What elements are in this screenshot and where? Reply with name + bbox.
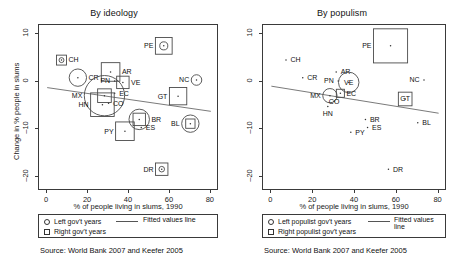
point-label-mx: MX [310,92,321,99]
source-note-right: Source: World Bank 2007 and Keefer 2005 [264,246,407,255]
x-tick-mark [438,190,439,193]
data-point-co [108,103,110,105]
data-point-pe [163,45,165,47]
point-label-pn: PN [324,77,334,84]
data-point-bl [190,123,192,125]
data-point-hn [327,106,329,108]
plot-area-left: CHCRPEARPNVEECMXCOHNNCGTBRESBLPYDR [38,24,218,190]
data-point-nc [196,79,198,81]
x-tick-mark [128,190,129,193]
point-label-gt: GT [158,93,168,100]
x-tick-mark [87,190,88,193]
point-label-es: ES [146,124,156,131]
point-label-co: CO [329,98,340,105]
point-label-nc: NC [409,76,419,83]
point-label-ch: CH [68,56,78,63]
point-label-pe: PE [362,42,372,49]
y-tick-mark [35,176,38,177]
point-label-nc: NC [179,76,189,83]
data-point-pn [114,80,116,82]
data-point-ar [335,71,337,73]
x-tick-label: 0 [36,195,56,204]
figure-root: By ideology Change in % people in slums … [0,0,456,269]
data-point-bl [417,122,419,124]
point-label-ec: EC [346,90,356,97]
point-label-pe: PE [144,42,154,49]
plot-area-right: CHCRPEARPNVEECMXCOHNNCGTBRESBLPYDR [262,24,446,190]
data-point-ve [122,82,124,84]
data-point-cr [77,77,79,79]
data-point-ar [110,71,112,73]
x-tick-mark [210,190,211,193]
data-point-nc [423,79,425,81]
square-marker-icon [44,229,50,235]
data-point-py [350,131,352,133]
x-tick-mark [312,190,313,193]
point-label-py: PY [104,128,114,135]
scatter-layer-right: CHCRPEARPNVEECMXCOHNNCGTBRESBLPYDR [263,25,446,190]
point-label-ve: VE [131,79,141,86]
x-tick-label: 60 [386,195,406,204]
data-point-gt [177,95,179,97]
y-tick-label: –10 [245,121,254,135]
point-label-br: BR [370,116,380,123]
y-tick-label: 0 [21,73,30,87]
data-point-es [367,127,369,128]
legend-label-fitted: Fitted values line [394,216,445,230]
point-label-mx: MX [72,92,83,99]
x-tick-label: 40 [344,195,364,204]
point-label-gt: GT [400,95,410,102]
y-tick-mark [259,128,262,129]
data-point-es [141,127,143,128]
point-label-ar: AR [122,68,132,75]
x-tick-label: 40 [118,195,138,204]
square-marker-icon [268,229,274,235]
panel-title-left: By ideology [0,8,228,18]
point-label-bl: BL [171,120,180,127]
panel-by-populism: By populism CHCRPEARPNVEECMXCOHNNCGTBRES… [228,0,456,269]
x-tick-mark [169,190,170,193]
y-tick-mark [259,81,262,82]
data-point-ch [61,59,63,61]
y-tick-label: 10 [245,26,254,40]
y-tick-label: –10 [21,121,30,135]
fitted-line-icon [116,221,138,222]
legend-row-right-gov: Right gov't years [44,226,106,237]
data-point-hn [102,104,104,106]
legend-label-right-gov: Right gov't years [54,228,106,235]
legend-left: Left gov't years Right gov't years Fitte… [38,214,218,238]
y-tick-mark [35,81,38,82]
point-label-cr: CR [307,74,317,81]
y-tick-label: –20 [21,168,30,182]
point-label-ch: CH [291,56,301,63]
x-tick-mark [354,190,355,193]
panel-title-right: By populism [228,8,456,18]
y-tick-mark [35,128,38,129]
x-tick-mark [270,190,271,193]
point-label-cr: CR [89,74,99,81]
legend-row-right-populist: Right populist gov't years [268,226,356,237]
y-tick-label: 10 [21,26,30,40]
x-tick-label: 80 [428,195,448,204]
data-point-br [365,119,367,121]
point-label-pn: PN [100,77,110,84]
legend-right: Left populist gov't years Right populist… [262,214,446,238]
data-point-py [124,130,126,132]
point-label-co: CO [113,100,124,107]
panel-by-ideology: By ideology Change in % people in slums … [0,0,228,269]
x-tick-label: 20 [77,195,97,204]
x-tick-mark [396,190,397,193]
data-point-ch [285,59,287,61]
point-label-py: PY [355,129,365,136]
point-label-hn: HN [323,110,333,117]
x-tick-label: 60 [159,195,179,204]
data-point-mx [104,95,106,97]
point-label-ve: VE [344,79,354,86]
point-label-br: BR [151,116,161,123]
y-tick-label: –20 [245,168,254,182]
x-tick-label: 0 [260,195,280,204]
point-label-bl: BL [422,119,431,126]
legend-label-left-gov: Left gov't years [54,218,101,225]
x-tick-label: 80 [200,195,220,204]
x-tick-mark [46,190,47,193]
